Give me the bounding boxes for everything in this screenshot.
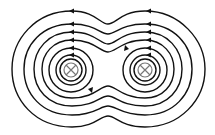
field-line-outer-1	[12, 11, 205, 127]
field-line-diagram	[0, 0, 215, 135]
